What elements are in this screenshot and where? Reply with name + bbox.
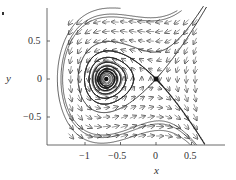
vector-arrow [167, 67, 169, 71]
vector-arrow [165, 135, 172, 136]
vector-arrow [157, 59, 162, 60]
vector-arrow [176, 95, 179, 100]
vector-arrow [139, 116, 145, 118]
vector-arrow [139, 40, 145, 41]
vector-arrow [193, 133, 198, 138]
vector-arrow [166, 96, 170, 99]
vector-arrow [175, 29, 181, 33]
vector-arrow [186, 85, 187, 92]
vector-arrow [184, 124, 189, 129]
vector-arrow [147, 126, 154, 127]
vector-arrow [166, 106, 171, 109]
vector-arrow [195, 66, 196, 73]
vector-arrow [94, 30, 101, 32]
vector-arrow [70, 85, 71, 92]
vector-arrow [94, 116, 100, 117]
vector-arrow [165, 21, 172, 23]
vector-arrow [138, 135, 145, 137]
vector-arrow [78, 105, 82, 111]
vector-arrow [156, 40, 162, 41]
streamline [157, 80, 205, 145]
vector-arrow [147, 135, 154, 136]
vector-arrow [174, 20, 180, 24]
vector-arrow [158, 88, 162, 89]
vector-arrow [148, 107, 153, 108]
x-tick-label-neg0.5: −0.5 [108, 151, 126, 161]
vector-arrow [167, 87, 169, 91]
vector-arrow [77, 114, 82, 119]
vector-arrow [121, 50, 126, 52]
vector-arrow [103, 136, 110, 137]
vector-arrow [121, 40, 127, 42]
vector-arrow [148, 97, 153, 99]
vector-arrow [130, 106, 135, 109]
vector-field-arrows [68, 19, 197, 139]
vector-arrow [195, 85, 196, 92]
y-axis-label: y [6, 72, 11, 84]
vector-arrow [132, 87, 135, 91]
vector-arrow [103, 31, 110, 32]
vector-arrow [194, 95, 196, 102]
vector-arrow [113, 97, 117, 99]
vector-arrow [148, 60, 153, 61]
vector-arrow [194, 57, 196, 64]
vector-arrow [70, 95, 72, 102]
vector-arrow [121, 125, 128, 127]
vector-arrow [138, 31, 145, 32]
vector-arrow [130, 50, 135, 52]
vector-arrow [86, 30, 92, 34]
x-axis-label: x [154, 164, 159, 176]
vector-arrow [69, 47, 72, 53]
vector-arrow [78, 38, 82, 43]
vector-arrow [121, 116, 127, 118]
vector-arrow [185, 47, 188, 53]
spiral-fixed-point [104, 77, 109, 82]
vector-arrow [113, 107, 118, 109]
vector-arrow [70, 57, 72, 64]
panel-marker-dot [2, 12, 4, 15]
vector-arrow [186, 66, 187, 73]
vector-arrow [193, 29, 197, 35]
vector-arrow [148, 116, 154, 117]
vector-arrow [194, 47, 197, 54]
vector-arrow [156, 22, 163, 23]
vector-arrow [103, 22, 110, 23]
vector-arrow [184, 20, 189, 25]
vector-arrow [69, 38, 72, 44]
vector-arrow [88, 67, 90, 72]
vector-arrow [175, 115, 181, 119]
vector-arrow [165, 30, 171, 33]
vector-arrow [103, 117, 109, 118]
vector-arrow [86, 39, 92, 43]
y-tick-label-0.5: 0.5 [28, 36, 41, 46]
vector-arrow [166, 49, 171, 52]
vector-arrow [139, 106, 144, 108]
vector-arrow [95, 107, 100, 109]
vector-arrow [165, 116, 171, 118]
vector-arrow [184, 105, 188, 111]
vector-arrow [78, 48, 82, 54]
axes [47, 8, 225, 145]
vector-arrow [194, 38, 197, 44]
vector-arrow [130, 31, 137, 32]
vector-arrow [121, 135, 128, 137]
vector-arrow [149, 88, 152, 90]
y-tick-label-0: 0 [37, 74, 42, 84]
vector-arrow [86, 115, 92, 119]
vector-arrow [121, 22, 128, 23]
vector-arrow [193, 114, 196, 120]
vector-arrow [167, 58, 171, 62]
vector-arrow [130, 40, 136, 42]
vector-arrow [156, 31, 163, 32]
vector-arrow [112, 31, 119, 32]
vector-arrow [185, 57, 187, 64]
vector-arrow [175, 39, 180, 44]
x-tick-label-0.5: 0.5 [184, 151, 197, 161]
vector-arrow [149, 69, 153, 71]
vector-arrow [70, 66, 71, 73]
vector-arrow [88, 86, 90, 91]
vector-arrow [112, 116, 118, 118]
vector-arrow [140, 87, 143, 90]
vector-arrow [177, 86, 179, 92]
vector-arrow [138, 22, 145, 23]
